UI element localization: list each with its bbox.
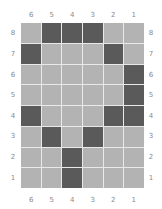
row-label-right: 1 [145, 174, 157, 182]
grid-cell [42, 44, 62, 64]
grid-cell [83, 168, 103, 188]
row-label-left: 6 [7, 71, 19, 79]
row-label-right: 2 [145, 153, 157, 161]
grid-cell [62, 127, 82, 147]
grid-cell [62, 23, 82, 43]
column-label-bottom: 4 [66, 196, 78, 204]
grid-cell [124, 65, 144, 85]
column-label-top: 5 [46, 11, 58, 19]
grid-cell [104, 44, 124, 64]
grid-cell [104, 148, 124, 168]
grid-cell [42, 23, 62, 43]
grid-cell [124, 106, 144, 126]
grid-cell [104, 23, 124, 43]
grid-cell [104, 85, 124, 105]
grid-cell [104, 106, 124, 126]
grid-cell [124, 23, 144, 43]
grid-cell [62, 44, 82, 64]
row-label-left: 4 [7, 112, 19, 120]
grid-cell [42, 148, 62, 168]
column-label-bottom: 1 [128, 196, 140, 204]
pattern-grid [21, 23, 144, 188]
grid-cell [124, 168, 144, 188]
grid-cell [83, 44, 103, 64]
grid-cell [62, 168, 82, 188]
grid-cell [83, 85, 103, 105]
grid-cell [21, 85, 41, 105]
grid-cell [83, 127, 103, 147]
grid-cell [124, 85, 144, 105]
column-label-bottom: 5 [46, 196, 58, 204]
grid-cell [62, 85, 82, 105]
column-label-top: 3 [87, 11, 99, 19]
grid-cell [83, 106, 103, 126]
column-label-bottom: 2 [107, 196, 119, 204]
grid-cell [42, 85, 62, 105]
column-label-bottom: 3 [87, 196, 99, 204]
grid-cell [104, 168, 124, 188]
row-label-right: 8 [145, 29, 157, 37]
grid-cell [83, 148, 103, 168]
row-label-left: 3 [7, 132, 19, 140]
row-label-right: 3 [145, 132, 157, 140]
grid-cell [21, 106, 41, 126]
grid-cell [42, 168, 62, 188]
row-label-left: 1 [7, 174, 19, 182]
grid-cell [21, 65, 41, 85]
grid-cell [42, 65, 62, 85]
row-label-right: 4 [145, 112, 157, 120]
row-label-left: 5 [7, 91, 19, 99]
column-label-top: 4 [66, 11, 78, 19]
row-label-right: 6 [145, 71, 157, 79]
grid-cell [21, 127, 41, 147]
grid-cell [124, 127, 144, 147]
column-label-top: 6 [25, 11, 37, 19]
row-label-left: 8 [7, 29, 19, 37]
row-label-right: 7 [145, 50, 157, 58]
grid-cell [62, 148, 82, 168]
grid-cell [104, 65, 124, 85]
grid-cell [21, 23, 41, 43]
column-label-bottom: 6 [25, 196, 37, 204]
grid-cell [21, 168, 41, 188]
grid-cell [42, 106, 62, 126]
column-label-top: 1 [128, 11, 140, 19]
grid-cell [124, 148, 144, 168]
column-label-top: 2 [107, 11, 119, 19]
row-label-left: 2 [7, 153, 19, 161]
grid-cell [62, 106, 82, 126]
grid-cell [62, 65, 82, 85]
grid-cell [42, 127, 62, 147]
grid-cell [83, 65, 103, 85]
grid-cell [104, 127, 124, 147]
row-label-right: 5 [145, 91, 157, 99]
grid-cell [124, 44, 144, 64]
row-label-left: 7 [7, 50, 19, 58]
grid-cell [21, 148, 41, 168]
grid-cell [21, 44, 41, 64]
grid-cell [83, 23, 103, 43]
